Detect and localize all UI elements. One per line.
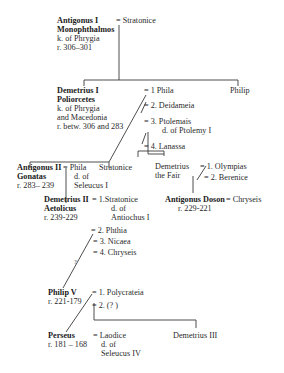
perseus-name: Perseus <box>48 331 75 340</box>
perseus-wife: = Laodice <box>93 331 126 340</box>
demetrius-fair-wife-2: = 2. Berenice <box>204 173 248 182</box>
demetrius2-wife-1-note2: Antiochus I <box>111 213 149 222</box>
antigonus1-reign: r. 306–301 <box>57 43 92 52</box>
antigonus2-wife-note2: Seleucus I <box>74 181 108 190</box>
demetrius-fair-epithet: the Fair <box>155 171 180 180</box>
line-phthia-to-philip5 <box>63 234 93 288</box>
demetrius-fair-name: Demetrius <box>155 162 189 171</box>
demetrius2-wife-4: = 4. Chryseis <box>93 248 137 257</box>
antigonus2-wife: = Phila <box>63 163 87 172</box>
philip5-wife-1: = 1. Polycrateia <box>92 288 144 297</box>
antigonus1-name: Antigonus I <box>57 16 98 25</box>
philip5-reign: r. 221-179 <box>48 297 82 306</box>
uncertain-descent-mark: ? <box>74 259 77 265</box>
demetrius1-title1: k. of Phrygia <box>57 104 100 113</box>
demetrius1-wife-3: = 3. Ptolemais <box>144 117 191 126</box>
demetrius2-reign: r. 239-229 <box>44 213 78 222</box>
demetrius1-name: Demetrius I <box>57 86 99 95</box>
demetrius3-name: Demetrius III <box>173 331 217 340</box>
antigonus1-epithet: Monophthalmos <box>57 25 114 34</box>
demetrius1-wife-3-note: d. of Ptolemy I <box>162 126 211 135</box>
demetrius1-reign: r. betw. 306 and 283 <box>57 122 123 131</box>
antigonus2-epithet: Gonatas <box>17 172 46 181</box>
demetrius2-name: Demetrius II <box>44 195 89 204</box>
antigonus2-wife-note1: d. of <box>74 172 89 181</box>
antigonus2-reign: r. 283– 239 <box>17 181 54 190</box>
perseus-reign: r. 181 – 168 <box>48 340 87 349</box>
demetrius1-wife-4: = 4. Lanassa <box>144 142 185 151</box>
demetrius-fair-wife-1: = 1. Olympias <box>200 162 247 171</box>
demetrius2-wife-2: = 2. Phthia <box>91 226 127 235</box>
stratonice-wife: = Stratonice <box>116 16 156 25</box>
doson-wife: = Chryseis <box>226 195 261 204</box>
philip-name: Philip <box>230 86 250 95</box>
antigonus2-name: Antigonus II <box>17 163 61 172</box>
stratonice-daughter: Stratonice <box>99 163 132 172</box>
demetrius2-epithet: Aetolicus <box>44 204 76 213</box>
demetrius1-wife-1: = 1 Phila <box>144 86 174 95</box>
antigonus-doson-name: Antigonus Doson <box>165 195 225 204</box>
demetrius2-wife-1-note1: d. of <box>111 204 126 213</box>
perseus-wife-note1: d. of <box>101 340 116 349</box>
demetrius1-epithet: Poliorcetes <box>57 95 95 104</box>
antigonus1-title: k. of Phrygia <box>57 34 100 43</box>
philip5-name: Philip V <box>48 288 77 297</box>
demetrius2-wife-1: = 1.Stratonice <box>92 195 138 204</box>
antigonus-doson-reign: r. 229-221 <box>178 204 212 213</box>
demetrius1-title2: and Macedonia <box>57 113 107 122</box>
perseus-wife-note2: Seleucus IV <box>101 349 141 358</box>
demetrius1-wife-2: = 2. Deidameia <box>144 101 194 110</box>
family-tree-diagram: Antigonus I Monophthalmos k. of Phrygia … <box>0 0 284 373</box>
philip5-wife-2: = 2. (? ) <box>92 301 118 310</box>
demetrius2-wife-3: = 3. Nicaea <box>93 237 131 246</box>
